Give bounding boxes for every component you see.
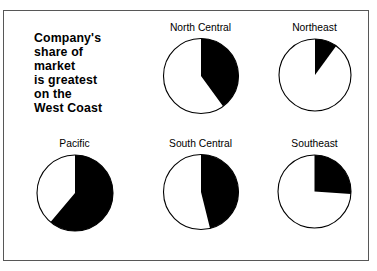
pie-panel-southeast: Southeast	[258, 138, 371, 250]
pie-panel-north-central: North Central	[144, 22, 257, 134]
pie-holder-northeast	[258, 37, 371, 131]
pie-chart-pacific	[35, 153, 115, 233]
pie-label-pacific: Pacific	[18, 138, 131, 150]
pie-panel-south-central: South Central	[144, 138, 257, 250]
pie-chart-northeast	[277, 37, 353, 113]
pie-chart-southeast	[276, 153, 353, 230]
pie-wedge-south-central	[201, 155, 238, 229]
pie-label-north-central: North Central	[144, 22, 257, 34]
pie-holder-north-central	[144, 37, 257, 131]
pie-panel-northeast: Northeast	[258, 22, 371, 134]
panel-grid: Company's share of market is greatest on…	[4, 11, 368, 260]
pie-holder-southeast	[258, 153, 371, 247]
pie-label-northeast: Northeast	[258, 22, 371, 34]
pie-chart-north-central	[162, 37, 240, 115]
pie-panel-pacific: Pacific	[18, 138, 131, 250]
pie-chart-south-central	[162, 153, 240, 231]
pie-holder-south-central	[144, 153, 257, 247]
pie-wedge-southeast	[315, 155, 351, 194]
headline-panel: Company's share of market is greatest on…	[34, 31, 142, 131]
pie-holder-pacific	[18, 153, 131, 247]
pie-label-south-central: South Central	[144, 138, 257, 150]
pie-label-southeast: Southeast	[258, 138, 371, 150]
pie-wedge-northeast	[315, 39, 336, 75]
headline-text: Company's share of market is greatest on…	[34, 31, 142, 116]
figure-root: Company's share of market is greatest on…	[0, 0, 377, 271]
chart-frame: Company's share of market is greatest on…	[3, 10, 369, 261]
pie-wedge-pacific	[50, 155, 112, 231]
